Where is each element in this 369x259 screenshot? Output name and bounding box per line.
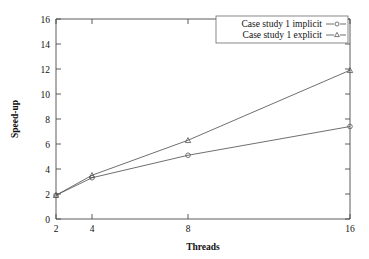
x-tick-label: 16 <box>345 224 355 234</box>
y-tick-label: 2 <box>45 190 50 200</box>
x-tick-label: 2 <box>54 224 59 234</box>
legend: Case study 1 implicit Case study 1 expli… <box>216 16 348 43</box>
y-tick-label: 10 <box>41 90 51 100</box>
legend-label-implicit: Case study 1 implicit <box>242 19 323 29</box>
x-tick-label: 8 <box>186 224 191 234</box>
y-tick-label: 4 <box>45 165 50 175</box>
x-tick-label: 4 <box>90 224 95 234</box>
speedup-line-chart: 0 2 4 6 8 10 12 14 16 2 4 8 16 <box>0 0 369 259</box>
x-axis-title: Threads <box>186 242 220 252</box>
y-tick-label: 0 <box>45 215 50 225</box>
y-tick-label: 16 <box>41 15 51 25</box>
y-tick-label: 12 <box>41 65 51 75</box>
y-tick-label: 8 <box>45 115 50 125</box>
y-tick-label: 14 <box>41 40 51 50</box>
chart-canvas: 0 2 4 6 8 10 12 14 16 2 4 8 16 <box>0 0 369 259</box>
legend-label-explicit: Case study 1 explicit <box>243 30 323 40</box>
y-axis-title: Speed-up <box>10 100 20 138</box>
y-tick-label: 6 <box>45 140 50 150</box>
